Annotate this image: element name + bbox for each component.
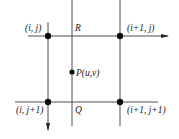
grid-point-tl — [45, 33, 51, 39]
label-tl: (i, j) — [25, 23, 41, 34]
label-tr: (i+1, j) — [127, 23, 155, 34]
grid-point-br — [117, 99, 123, 105]
label-br: (i+1, j+1) — [127, 105, 166, 116]
interpolation-diagram: (i, j) (i+1, j) (i, j+1) (i+1, j+1) P(u,… — [0, 0, 179, 139]
label-bl: (i, j+1) — [16, 105, 44, 116]
label-q: Q — [75, 105, 82, 115]
label-p: P(u,v) — [75, 68, 99, 79]
point-p-dot — [69, 69, 74, 74]
grid-point-tr — [117, 33, 123, 39]
label-r: R — [74, 23, 81, 33]
grid-point-bl — [45, 99, 51, 105]
